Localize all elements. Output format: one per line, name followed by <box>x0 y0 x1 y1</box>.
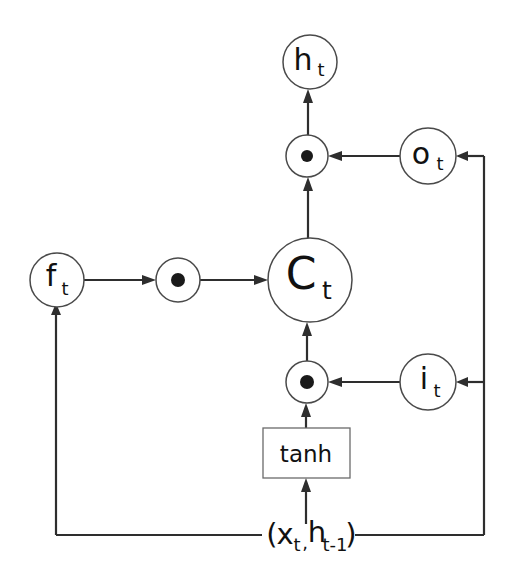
input-gate-label: i <box>420 361 428 396</box>
node-output-gate[interactable]: o t <box>400 128 456 184</box>
input-x-subscript: t <box>293 534 300 555</box>
input-vector-label: ( x t , h t-1 ) <box>266 515 356 555</box>
arrowhead-forget-gate-to-multiply <box>142 275 156 285</box>
arrowhead-tanh-to-multiply-input <box>301 403 311 417</box>
arrowhead-right-bus-to-output-gate <box>456 151 468 161</box>
operator-multiply-forget[interactable] <box>156 258 200 302</box>
arrowhead-input-gate-to-multiply <box>328 377 342 387</box>
node-forget-gate[interactable]: f t <box>30 253 84 307</box>
input-gate-subscript: t <box>433 380 440 401</box>
arrowhead-output-gate-to-multiply <box>328 151 342 161</box>
multiply-output-dot-icon <box>301 150 313 162</box>
tanh-label: tanh <box>280 441 332 467</box>
forget-gate-subscript: t <box>61 278 68 299</box>
arrowhead-multiply-forget-to-cell <box>254 275 268 285</box>
forget-gate-label: f <box>46 258 58 293</box>
arrowhead-right-bus-to-input-gate <box>456 377 468 387</box>
node-cell-state[interactable]: C t <box>268 238 352 322</box>
output-gate-label: o <box>412 136 430 171</box>
node-input-gate[interactable]: i t <box>400 354 456 410</box>
operator-multiply-input[interactable] <box>286 361 328 403</box>
multiply-input-dot-icon <box>300 375 314 389</box>
arrowhead-multiply-input-to-cell <box>302 322 312 336</box>
forget-gate-circle[interactable] <box>30 253 84 307</box>
cell-state-subscript: t <box>322 276 332 305</box>
hidden-output-label: h <box>293 42 312 77</box>
arrowhead-multiply-output-to-hidden <box>303 89 313 103</box>
input-x-base: x <box>276 517 293 551</box>
tanh-gate[interactable]: tanh <box>263 428 350 478</box>
operator-multiply-output[interactable] <box>286 135 328 177</box>
arrowhead-input-to-tanh <box>301 478 311 492</box>
arrowhead-cell-to-multiply-output <box>303 177 313 191</box>
hidden-output-subscript: t <box>317 59 324 80</box>
output-gate-subscript: t <box>436 153 443 174</box>
input-h-subscript: t-1 <box>322 534 347 555</box>
lstm-diagram-canvas: tanh h t o t f t C t i t <box>0 0 515 574</box>
node-hidden-output[interactable]: h t <box>283 35 337 89</box>
cell-state-label: C <box>286 248 317 299</box>
input-close-paren: ) <box>345 517 356 551</box>
lstm-diagram: tanh h t o t f t C t i t <box>0 0 515 574</box>
multiply-forget-dot-icon <box>171 273 185 287</box>
